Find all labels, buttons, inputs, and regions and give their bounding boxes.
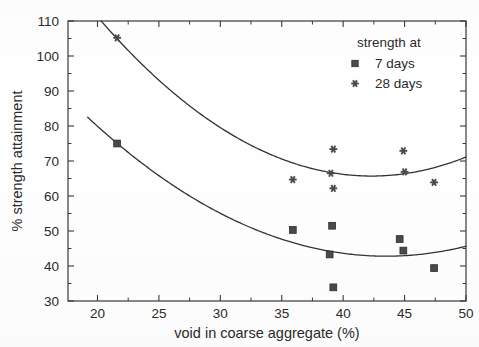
y-axis-title: % strength attainment (9, 90, 25, 231)
y-tick-label: 70 (44, 154, 59, 169)
data-point (326, 251, 333, 258)
y-tick-label: 60 (44, 189, 59, 204)
y-tick-label: 110 (37, 14, 59, 29)
y-tick-label: 40 (44, 259, 59, 274)
x-tick-label: 35 (274, 306, 289, 321)
legend-label: 7 days (375, 56, 415, 71)
x-tick-label: 50 (458, 306, 473, 321)
data-point (114, 140, 121, 147)
y-tick-label: 30 (44, 294, 59, 309)
x-tick-label: 25 (151, 306, 166, 321)
y-tick-label: 90 (44, 84, 59, 99)
data-point (289, 227, 296, 234)
legend-title: strength at (357, 35, 421, 50)
x-tick-label: 30 (213, 306, 228, 321)
y-tick-label: 50 (44, 224, 59, 239)
data-point (400, 247, 407, 254)
y-tick-label: 100 (36, 49, 59, 64)
x-axis-title: void in coarse aggregate (%) (174, 325, 359, 341)
x-tick-label: 45 (397, 306, 412, 321)
x-tick-label: 40 (336, 306, 351, 321)
data-point (396, 236, 403, 243)
scatter-plot-svg: 20253035404550 30405060708090100110 void… (0, 0, 479, 347)
data-point (329, 222, 336, 229)
legend-label: 28 days (375, 76, 423, 91)
data-point (330, 284, 337, 291)
y-tick-label: 80 (44, 119, 59, 134)
data-point (431, 265, 438, 272)
x-tick-label: 20 (90, 306, 105, 321)
legend-marker-square (352, 60, 358, 66)
